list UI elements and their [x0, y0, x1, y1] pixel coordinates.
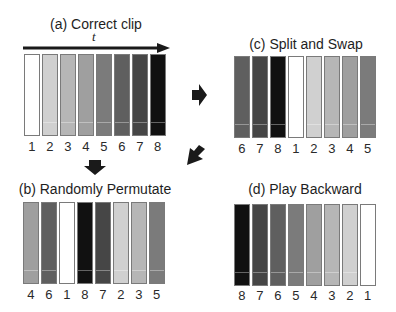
frame-3 [324, 204, 340, 286]
frame-6 [234, 56, 250, 138]
frame-6 [114, 54, 130, 136]
frame-index-label: 1 [24, 139, 40, 154]
frame-index-label: 8 [150, 139, 166, 154]
frame-6 [270, 204, 286, 286]
frame-index-label: 3 [324, 288, 340, 303]
frame-index-label: 1 [59, 287, 75, 302]
frame-index-label: 6 [234, 141, 250, 156]
frame-index-label: 2 [342, 288, 358, 303]
panel-title: (a) Correct clip [50, 16, 142, 32]
frame-index-label: 5 [96, 139, 112, 154]
frame-index-label: 6 [114, 139, 130, 154]
frame-index-label: 3 [60, 139, 76, 154]
frame-index-label: 2 [113, 287, 129, 302]
frame-strip [234, 204, 376, 286]
frame-index-label: 2 [42, 139, 58, 154]
frame-8 [77, 202, 93, 284]
frame-index-label: 3 [324, 141, 340, 156]
frame-7 [252, 56, 268, 138]
frame-index-label: 5 [360, 141, 376, 156]
frame-index-label: 7 [95, 287, 111, 302]
frame-5 [96, 54, 112, 136]
frame-index-label: 7 [252, 288, 268, 303]
panel-title: (b) Randomly Permutate [19, 181, 172, 197]
frame-index-label: 8 [234, 288, 250, 303]
panel-title: (c) Split and Swap [249, 36, 363, 52]
panel-title: (d) Play Backward [248, 181, 362, 197]
frame-index-labels: 12345678 [24, 139, 166, 154]
frame-index-label: 5 [149, 287, 165, 302]
frame-index-label: 7 [252, 141, 268, 156]
frame-2 [342, 204, 358, 286]
frame-1 [288, 56, 304, 138]
frame-8 [270, 56, 286, 138]
frame-4 [78, 54, 94, 136]
frame-index-label: 4 [342, 141, 358, 156]
arrow-down-left-icon [186, 145, 206, 167]
frame-1 [59, 202, 75, 284]
frame-strip [234, 56, 376, 138]
frame-index-label: 8 [77, 287, 93, 302]
frame-index-labels: 87654321 [234, 288, 376, 303]
time-arrow-icon [23, 43, 171, 53]
frame-index-label: 8 [270, 141, 286, 156]
frame-4 [23, 202, 39, 284]
frame-strip [23, 202, 165, 284]
frame-3 [324, 56, 340, 138]
frame-index-label: 4 [23, 287, 39, 302]
frame-1 [360, 204, 376, 286]
frame-index-label: 4 [78, 139, 94, 154]
frame-index-labels: 46187235 [23, 287, 165, 302]
frame-index-label: 1 [360, 288, 376, 303]
frame-7 [132, 54, 148, 136]
frame-index-label: 3 [131, 287, 147, 302]
frame-index-label: 2 [306, 141, 322, 156]
frame-5 [360, 56, 376, 138]
frame-3 [131, 202, 147, 284]
frame-2 [113, 202, 129, 284]
arrow-right-icon [192, 84, 208, 106]
arrow-down-icon [84, 160, 106, 176]
frame-index-label: 5 [288, 288, 304, 303]
frame-index-label: 6 [41, 287, 57, 302]
frame-7 [252, 204, 268, 286]
frame-2 [42, 54, 58, 136]
frame-8 [234, 204, 250, 286]
frame-index-label: 4 [306, 288, 322, 303]
frame-6 [41, 202, 57, 284]
frame-2 [306, 56, 322, 138]
frame-4 [342, 56, 358, 138]
frame-1 [24, 54, 40, 136]
frame-index-label: 7 [132, 139, 148, 154]
frame-5 [149, 202, 165, 284]
frame-strip [24, 54, 166, 136]
frame-4 [306, 204, 322, 286]
frame-index-label: 6 [270, 288, 286, 303]
frame-7 [95, 202, 111, 284]
frame-3 [60, 54, 76, 136]
frame-index-label: 1 [288, 141, 304, 156]
frame-5 [288, 204, 304, 286]
frame-index-labels: 67812345 [234, 141, 376, 156]
frame-8 [150, 54, 166, 136]
